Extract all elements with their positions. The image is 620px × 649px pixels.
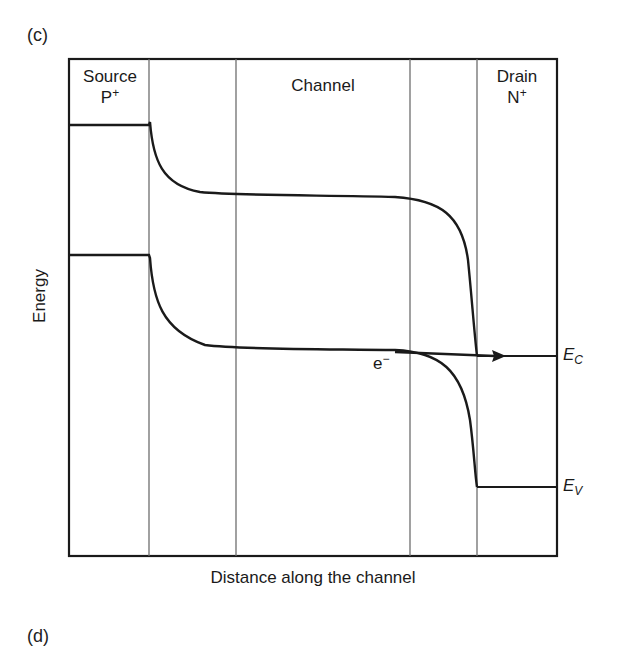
ev-label: EV [563,476,582,496]
ec-label: EC [563,345,583,365]
panel-label-d: (d) [27,626,49,647]
y-axis-label: Energy [30,266,50,326]
plot-frame [69,59,557,556]
upper-band-curve [69,122,477,356]
source-doping: P+ [72,87,148,108]
tunneling-arrow-head-icon [492,350,506,362]
drain-doping: N+ [478,87,556,108]
region-label-channel: Channel [236,75,410,96]
source-name: Source [72,66,148,87]
x-axis-label: Distance along the channel [69,568,557,588]
region-label-source: Source P+ [72,66,148,108]
electron-label: e− [373,354,389,374]
lower-band-curve [69,255,477,487]
region-label-drain: Drain N+ [478,66,556,108]
drain-name: Drain [478,66,556,87]
